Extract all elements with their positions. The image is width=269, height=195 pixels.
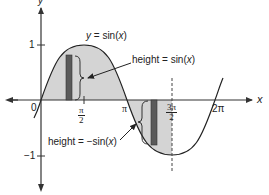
x-axis-label: x <box>257 94 263 105</box>
annotation-height-sin: height = sin(x) <box>132 55 195 65</box>
arrow-negative <box>120 124 136 140</box>
y-tick-1: 1 <box>29 40 35 50</box>
y-tick-neg1: −1 <box>24 151 35 161</box>
rectangle-positive <box>66 55 72 100</box>
diagram-svg <box>0 0 269 195</box>
y-axis-label: y <box>38 0 43 6</box>
x-tick-2pi: 2π <box>212 104 224 114</box>
curve-label: yy = sin( = sin(x) <box>86 31 127 41</box>
x-axis-left-arrow-icon <box>5 97 13 103</box>
rectangle-negative <box>151 100 157 145</box>
x-tick-3pi-over-2: 3π 2 <box>166 103 177 122</box>
y-axis-down-arrow-icon <box>38 184 44 192</box>
x-tick-pi-over-2: π 2 <box>78 106 85 125</box>
x-tick-pi: π <box>122 104 127 114</box>
origin-label: 0 <box>31 103 37 113</box>
sine-area-diagram: y x 0 1 −1 π 2 π 3π 2 2π yy = sin( = sin… <box>0 0 269 195</box>
annotation-height-neg-sin: height = −sin(x) <box>48 137 117 147</box>
